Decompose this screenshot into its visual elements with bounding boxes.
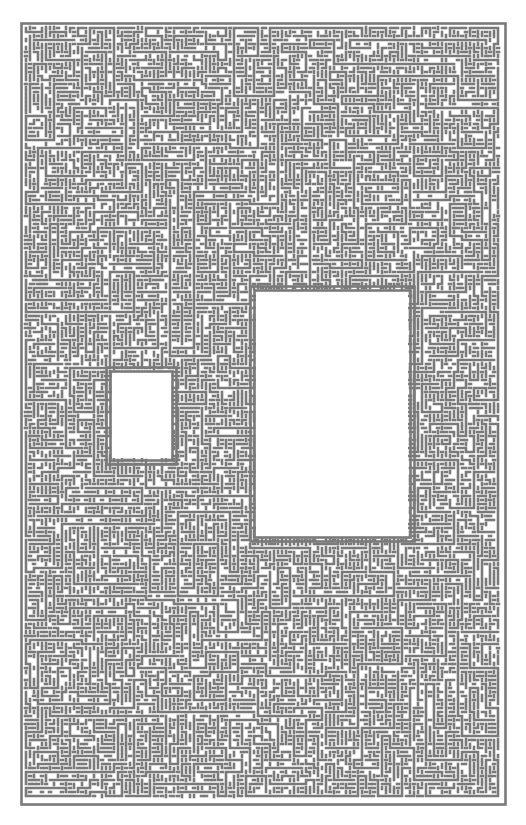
- maze-artwork: [0, 0, 526, 825]
